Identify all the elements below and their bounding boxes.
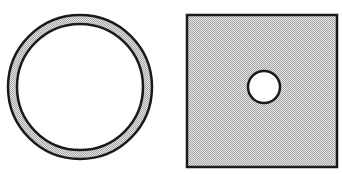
- ring-inner-edge: [17, 24, 143, 150]
- diagram-svg: [0, 0, 342, 174]
- diagram-canvas: [0, 0, 342, 174]
- square-hole: [248, 71, 280, 103]
- ring-figure: [8, 15, 152, 159]
- square-figure: [187, 15, 337, 167]
